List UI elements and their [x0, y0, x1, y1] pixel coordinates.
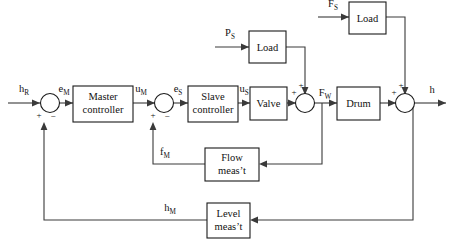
wire-load-flow-out [386, 17, 405, 88]
block-drum[interactable]: Drum [337, 87, 380, 120]
signal-label-error-slave: eS [174, 83, 183, 97]
signal-u-master-sub: M [140, 89, 147, 97]
block-label-slave-line1: Slave [201, 91, 225, 102]
arrowhead-flow-steam [341, 14, 349, 21]
wire-level-measured [44, 129, 207, 220]
signal-label-u-master: uM [135, 83, 147, 97]
arrowhead-flow-measured [150, 122, 157, 130]
block-flow-measurement[interactable]: Flow meas’t [205, 148, 259, 181]
arrowhead-u-slave [242, 100, 250, 107]
signal-pressure-steam-sub: S [231, 33, 235, 41]
wire-level-feedback-in [257, 103, 413, 220]
block-label-load-pressure: Load [257, 42, 279, 53]
block-diagram-canvas: Master controller Slave controller Valve… [0, 0, 452, 246]
sum-master-sign-bottom: − [50, 111, 55, 121]
signal-h-ref-sub: R [24, 89, 29, 97]
svg-text:hM: hM [164, 202, 176, 216]
summing-junction-level[interactable]: + + [391, 80, 414, 113]
arrowhead-u-master [147, 100, 155, 107]
svg-text:eS: eS [174, 83, 183, 97]
arrowhead-error-slave [180, 100, 188, 107]
block-load-flow[interactable]: Load [349, 2, 386, 34]
signal-error-master-sub: M [63, 89, 70, 97]
block-label-slave-line2: controller [193, 104, 234, 115]
arrowhead-level-out [438, 100, 446, 107]
arrowhead-drum-out [388, 100, 396, 107]
summing-junction-master[interactable]: + − [36, 94, 59, 122]
block-label-load-flow: Load [357, 13, 379, 24]
signal-label-level-measured: hM [164, 202, 176, 216]
arrowhead-h-ref [32, 100, 40, 107]
arrowhead-flow-feedback-in [259, 161, 267, 168]
svg-text:uS: uS [239, 83, 248, 97]
signal-label-level-out: h [429, 84, 435, 95]
block-label-valve: Valve [257, 98, 281, 109]
svg-text:PS: PS [225, 27, 235, 41]
block-label-flow-meas-line1: Flow [221, 152, 243, 163]
block-load-pressure[interactable]: Load [249, 31, 286, 63]
block-slave-controller[interactable]: Slave controller [188, 86, 238, 122]
signal-label-h-ref: hR [19, 83, 29, 97]
signal-flow-water-sub: W [325, 93, 332, 101]
summing-junction-slave[interactable]: + − [150, 94, 173, 122]
sum-master-sign-left: + [36, 110, 41, 120]
svg-text:uM: uM [135, 83, 147, 97]
block-label-master-line1: Master [88, 91, 118, 102]
block-label-master-line2: controller [83, 104, 124, 115]
arrowhead-valve-out [288, 100, 296, 107]
signal-error-slave-sub: S [178, 89, 182, 97]
block-valve[interactable]: Valve [250, 87, 287, 120]
signal-label-pressure-steam: PS [225, 27, 235, 41]
signal-flow-steam-sub: S [334, 4, 338, 12]
sum-flow-sign-top: + [298, 80, 303, 90]
block-label-drum: Drum [346, 98, 371, 109]
sum-slave-sign-bottom: − [164, 111, 169, 121]
svg-text:FW: FW [319, 87, 332, 101]
svg-text:fM: fM [160, 146, 171, 160]
signal-flow-measured-sub: M [164, 152, 171, 160]
arrowhead-flow-water [329, 100, 337, 107]
signal-label-u-slave: uS [239, 83, 248, 97]
arrowhead-error-master [65, 100, 73, 107]
svg-text:FS: FS [328, 0, 338, 12]
signal-label-flow-steam: FS [328, 0, 338, 12]
summing-junction-flow[interactable]: + + [291, 80, 314, 113]
signal-u-slave-sub: S [245, 89, 249, 97]
signal-label-flow-water: FW [319, 87, 332, 101]
sum-level-sign-top: + [398, 80, 403, 90]
signal-label-flow-measured: fM [160, 146, 171, 160]
signal-label-error-master: eM [58, 83, 70, 97]
svg-text:hR: hR [19, 83, 29, 97]
sum-slave-sign-left: + [150, 110, 155, 120]
block-level-measurement[interactable]: Level meas’t [207, 203, 250, 238]
sum-level-sign-left: + [391, 87, 396, 97]
signal-level-out-base: h [429, 84, 435, 95]
block-label-level-meas-line2: meas’t [215, 221, 243, 232]
svg-text:eM: eM [58, 83, 70, 97]
arrowhead-level-measured [41, 122, 48, 130]
signal-level-measured-sub: M [169, 208, 176, 216]
block-label-level-meas-line1: Level [217, 208, 241, 219]
arrowhead-level-feedback-in [250, 217, 258, 224]
block-master-controller[interactable]: Master controller [73, 86, 133, 122]
sum-flow-sign-left: + [291, 87, 296, 97]
arrowhead-pressure-steam [241, 44, 249, 51]
block-label-flow-meas-line2: meas’t [218, 165, 246, 176]
